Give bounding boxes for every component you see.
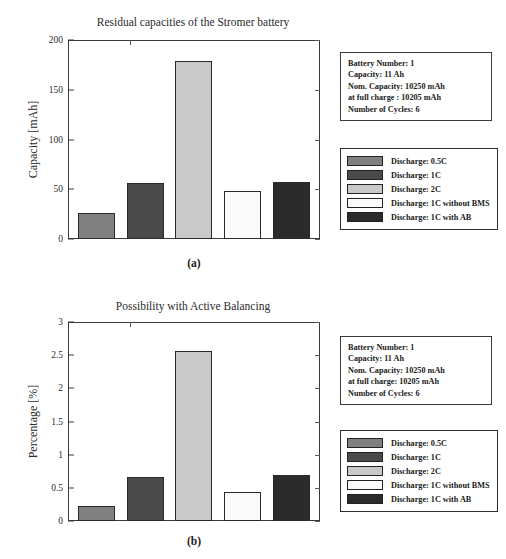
legend-swatch-icon [347, 156, 383, 166]
y-tick-mark-right [315, 239, 320, 240]
y-tick-label: 200 [49, 35, 63, 45]
bar-1 [78, 213, 115, 239]
legend-label: Discharge: 1C [391, 171, 441, 180]
info-line-full-charge: at full charge : 10205 mAh [348, 92, 485, 103]
legend-row: Discharge: 0.5C [347, 436, 493, 450]
legend-box-b: Discharge: 0.5CDischarge: 1CDischarge: 2… [340, 430, 498, 512]
info-line-battery-number: Battery Number: 1 [348, 342, 485, 353]
bar-1 [78, 506, 115, 521]
legend-box-a: Discharge: 0.5CDischarge: 1CDischarge: 2… [340, 148, 498, 230]
y-tick-label: 2 [58, 383, 63, 393]
y-tick-label: 1.5 [51, 417, 63, 427]
subcaption-b: (b) [68, 535, 320, 547]
legend-row: Discharge: 1C [347, 450, 493, 464]
chart-title-a: Residual capacities of the Stromer batte… [58, 16, 328, 28]
legend-row: Discharge: 1C without BMS [347, 478, 493, 492]
legend-row: Discharge: 0.5C [347, 154, 493, 168]
legend-swatch-icon [347, 438, 383, 448]
y-tick-label: 1 [58, 450, 63, 460]
figure-panel-b: Possibility with Active Balancing 00.511… [0, 282, 506, 559]
y-tick-label: 3 [58, 317, 63, 327]
y-tick-label: 0 [58, 516, 63, 526]
legend-row: Discharge: 1C with AB [347, 210, 493, 224]
battery-info-box-b: Battery Number: 1 Capacity: 11 Ah Nom. C… [340, 336, 492, 405]
legend-swatch-icon [347, 494, 383, 504]
legend-label: Discharge: 2C [391, 467, 441, 476]
info-line-battery-number: Battery Number: 1 [348, 58, 485, 69]
legend-label: Discharge: 0.5C [391, 157, 447, 166]
info-line-capacity: Capacity: 11 Ah [348, 69, 485, 80]
legend-label: Discharge: 1C without BMS [391, 199, 489, 208]
battery-info-box-a: Battery Number: 1 Capacity: 11 Ah Nom. C… [340, 52, 492, 121]
info-line-capacity: Capacity: 11 Ah [348, 353, 485, 364]
info-line-nominal-capacity: Nom. Capacity: 10250 mAh [348, 81, 485, 92]
legend-swatch-icon [347, 452, 383, 462]
legend-label: Discharge: 1C [391, 453, 441, 462]
legend-swatch-icon [347, 184, 383, 194]
legend-label: Discharge: 0.5C [391, 439, 447, 448]
y-tick-label: 2.5 [51, 350, 63, 360]
legend-row: Discharge: 1C [347, 168, 493, 182]
legend-swatch-icon [347, 480, 383, 490]
chart-title-b: Possibility with Active Balancing [58, 300, 328, 312]
legend-row: Discharge: 1C with AB [347, 492, 493, 506]
bar-3 [175, 351, 212, 521]
y-axis-label-b: Percentage [%] [26, 322, 41, 521]
subcaption-a: (a) [68, 257, 320, 269]
y-tick-label: 150 [49, 85, 63, 95]
y-tick-label: 0 [58, 234, 63, 244]
legend-label: Discharge: 2C [391, 185, 441, 194]
y-axis-label-a: Capacity [mAh] [26, 40, 41, 239]
info-line-number-of-cycles: Number of Cycles: 6 [348, 388, 485, 399]
legend-label: Discharge: 1C with AB [391, 495, 471, 504]
info-line-number-of-cycles: Number of Cycles: 6 [348, 104, 485, 115]
legend-row: Discharge: 2C [347, 464, 493, 478]
bar-5 [273, 182, 310, 239]
bar-5 [273, 475, 310, 521]
plot-area-b: 00.511.522.53 [68, 322, 320, 521]
bar-3 [175, 61, 212, 239]
plot-area-a: 050100150200 [68, 40, 320, 239]
legend-swatch-icon [347, 212, 383, 222]
y-tick-label: 100 [49, 135, 63, 145]
y-tick-mark-right [315, 521, 320, 522]
legend-label: Discharge: 1C with AB [391, 213, 471, 222]
legend-swatch-icon [347, 198, 383, 208]
info-line-full-charge: at full charge: 10205 mAh [348, 376, 485, 387]
legend-swatch-icon [347, 466, 383, 476]
legend-row: Discharge: 2C [347, 182, 493, 196]
figure-panel-a: Residual capacities of the Stromer batte… [0, 0, 506, 282]
bar-series-b [68, 322, 320, 521]
legend-swatch-icon [347, 170, 383, 180]
bar-2 [127, 183, 164, 239]
bar-2 [127, 477, 164, 521]
y-tick-label: 0.5 [51, 483, 63, 493]
bar-4 [224, 492, 261, 521]
info-line-nominal-capacity: Nom. Capacity: 10250 mAh [348, 365, 485, 376]
bar-4 [224, 191, 261, 239]
legend-label: Discharge: 1C without BMS [391, 481, 489, 490]
legend-row: Discharge: 1C without BMS [347, 196, 493, 210]
y-tick-label: 50 [54, 184, 64, 194]
bar-series-a [68, 40, 320, 239]
